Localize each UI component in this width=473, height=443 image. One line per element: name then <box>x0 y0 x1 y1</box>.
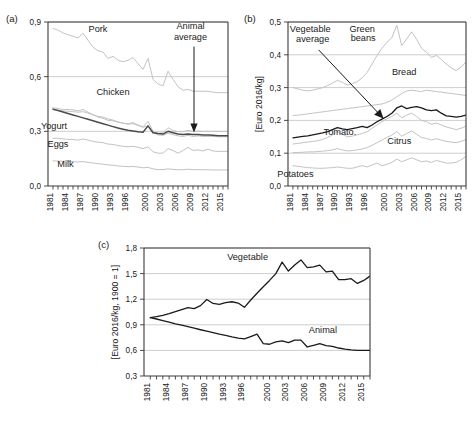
x-tick-label: 1984 <box>61 193 70 212</box>
x-tick-label: 1987 <box>76 193 85 212</box>
x-tick-label: 1990 <box>91 193 100 212</box>
y-tick-label: 0,0 <box>270 182 282 191</box>
chart-a: (a)0,00,30,60,91981198419871990199319962… <box>0 0 236 222</box>
x-tick-label: 2012 <box>338 383 347 402</box>
y-tick-label: 1,2 <box>126 295 138 304</box>
x-tick-label: 2009 <box>424 193 433 212</box>
series-line <box>53 138 228 153</box>
x-tick-label: 2003 <box>281 383 290 402</box>
x-tick-label: 1981 <box>286 193 295 212</box>
x-tick-label: 2006 <box>300 383 309 402</box>
series-line <box>293 156 466 168</box>
y-tick-label: 0,1 <box>270 149 282 158</box>
x-tick-label: 1984 <box>301 193 310 212</box>
series-line <box>150 318 370 351</box>
x-tick-label: 2015 <box>357 383 366 402</box>
series-annotation: average <box>174 32 207 42</box>
panel-a: (a)0,00,30,60,91981198419871990199319962… <box>0 0 236 222</box>
x-tick-label: 1996 <box>237 383 246 402</box>
panel-label: (b) <box>244 13 256 24</box>
x-tick-label: 1990 <box>330 193 339 212</box>
x-tick-label: 2006 <box>410 193 419 212</box>
x-tick-label: 1984 <box>162 383 171 402</box>
series-annotation: Tomato. <box>324 127 357 137</box>
series-annotation: Vegetable <box>227 252 268 262</box>
series-line <box>150 260 370 318</box>
series-line <box>53 108 228 134</box>
y-axis-title: [Euro 2016/kg] <box>254 76 264 132</box>
panel-b: (b)0,00,10,20,30,40,51981198419871990199… <box>236 0 473 222</box>
y-tick-label: 1,5 <box>126 270 138 279</box>
x-tick-label: 2000 <box>263 383 272 402</box>
x-tick-label: 1987 <box>316 193 325 212</box>
series-annotation: Chicken <box>96 87 129 97</box>
x-tick-label: 2009 <box>186 193 195 212</box>
x-tick-label: 2003 <box>395 193 404 212</box>
x-tick-label: 1996 <box>360 193 369 212</box>
series-annotation: beans <box>351 33 376 43</box>
x-tick-label: 2015 <box>454 193 463 212</box>
y-tick-label: 0,6 <box>30 73 42 82</box>
series-annotation: Potatoes <box>277 169 314 179</box>
y-tick-label: 0,4 <box>270 51 282 60</box>
series-annotation: Milk <box>57 159 74 169</box>
y-tick-label: 0,9 <box>126 321 138 330</box>
x-tick-label: 2012 <box>439 193 448 212</box>
y-tick-label: 0,3 <box>30 127 42 136</box>
y-tick-label: 1,8 <box>126 244 138 253</box>
x-tick-label: 1996 <box>121 193 130 212</box>
series-annotation: Pork <box>89 24 108 34</box>
y-tick-label: 0,5 <box>270 18 282 27</box>
chart-c: (c)0,30,60,91,21,51,81981198419871990199… <box>88 222 388 443</box>
panel-label: (a) <box>6 13 18 24</box>
x-tick-label: 1993 <box>219 383 228 402</box>
figure-container: (a)0,00,30,60,91981198419871990199319962… <box>0 0 473 443</box>
series-annotation: average <box>296 34 329 44</box>
x-tick-label: 1993 <box>106 193 115 212</box>
x-tick-label: 1987 <box>181 383 190 402</box>
x-tick-label: 2003 <box>156 193 165 212</box>
x-tick-label: 1993 <box>345 193 354 212</box>
series-annotation: Yogurt <box>41 121 68 131</box>
series-annotation: Citrus <box>387 136 411 146</box>
x-tick-label: 1990 <box>200 383 209 402</box>
y-tick-label: 0,3 <box>270 84 282 93</box>
y-tick-label: 0,9 <box>30 18 42 27</box>
y-tick-label: 0,0 <box>30 182 42 191</box>
y-tick-label: 0,6 <box>126 346 138 355</box>
x-tick-label: 1981 <box>143 383 152 402</box>
series-annotation: Animal <box>176 21 204 31</box>
series-annotation: Eggs <box>48 139 69 149</box>
x-tick-label: 2009 <box>319 383 328 402</box>
x-tick-label: 2015 <box>216 193 225 212</box>
series-annotation: Animal <box>309 325 337 335</box>
chart-b: (b)0,00,10,20,30,40,51981198419871990199… <box>236 0 473 222</box>
y-tick-label: 0,2 <box>270 116 282 125</box>
y-axis-title: [Euro 2016/kg, 1900 = 1] <box>110 265 120 359</box>
x-tick-label: 2012 <box>201 193 210 212</box>
series-line <box>53 110 228 137</box>
series-annotation: Bread <box>392 67 417 77</box>
series-line <box>53 161 228 170</box>
y-tick-label: 0,3 <box>126 372 138 381</box>
x-tick-label: 2000 <box>380 193 389 212</box>
x-tick-label: 2006 <box>171 193 180 212</box>
panel-label: (c) <box>98 239 109 250</box>
panel-c: (c)0,30,60,91,21,51,81981198419871990199… <box>88 222 388 443</box>
x-tick-label: 1981 <box>46 193 55 212</box>
x-tick-label: 2000 <box>141 193 150 212</box>
